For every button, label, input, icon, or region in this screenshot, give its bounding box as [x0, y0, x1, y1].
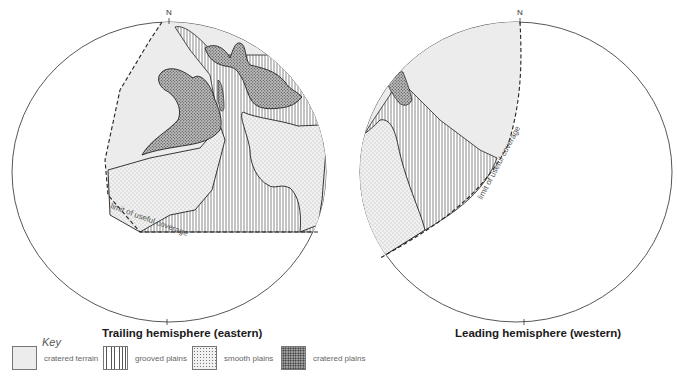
north-label: N — [166, 8, 172, 17]
cratered-terrain-swatch — [12, 346, 37, 370]
leading-hemisphere-map: limit of useful coverage — [355, 18, 672, 325]
key-item-smooth-plains: smooth plains — [192, 345, 273, 371]
grooved-plains-swatch — [103, 346, 128, 370]
key-label: grooved plains — [135, 354, 187, 363]
north-label: N — [517, 8, 523, 17]
smooth-plains-swatch — [192, 346, 217, 370]
key-item-cratered-plains: cratered plains — [281, 345, 365, 371]
key-item-cratered-terrain: cratered terrain — [12, 345, 98, 371]
key-label: smooth plains — [224, 354, 273, 363]
key-label: cratered terrain — [44, 354, 98, 363]
leading-hemisphere-title: Leading hemisphere (western) — [455, 327, 621, 339]
trailing-hemisphere-title: Trailing hemisphere (eastern) — [102, 327, 262, 339]
trailing-hemisphere-map: limit of useful coverage — [12, 18, 330, 325]
key-label: cratered plains — [313, 354, 365, 363]
cratered-plains-swatch — [281, 346, 306, 370]
key-item-grooved-plains: grooved plains — [103, 345, 187, 371]
